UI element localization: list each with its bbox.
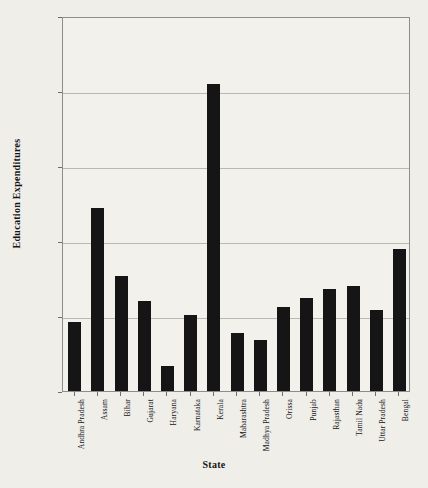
x-tick-mark: [97, 392, 98, 396]
y-axis-title: Education Expenditures: [11, 94, 22, 294]
x-tick-label: Orissa: [285, 399, 294, 419]
x-tick-mark: [282, 392, 283, 396]
x-tick-mark: [259, 392, 260, 396]
x-tick-mark: [236, 392, 237, 396]
x-tick-mark: [352, 392, 353, 396]
x-tick-label: Madhya Pradesh: [262, 399, 271, 451]
x-tick-mark: [74, 392, 75, 396]
bar: [68, 322, 81, 391]
bar: [254, 340, 267, 391]
bar: [300, 298, 313, 391]
bar: [370, 310, 383, 391]
y-tick-mark: [58, 392, 62, 393]
plot-area: [62, 17, 410, 392]
bar: [91, 208, 104, 391]
x-tick-label: Haryana: [169, 399, 178, 425]
x-tick-label: Bihar: [123, 399, 132, 416]
bar: [231, 333, 244, 392]
x-tick-mark: [143, 392, 144, 396]
x-tick-label: Uttar Pradesh: [378, 399, 387, 442]
x-tick-mark: [190, 392, 191, 396]
x-tick-label: Punjab: [309, 399, 318, 421]
bar: [277, 307, 290, 391]
bar: [138, 301, 151, 391]
bar: [161, 366, 174, 392]
x-tick-mark: [120, 392, 121, 396]
x-tick-label: Karnataka: [193, 399, 202, 431]
bar-group: [63, 18, 409, 391]
x-tick-label: Bengal: [401, 399, 410, 421]
x-tick-label: Rajasthan: [332, 399, 341, 430]
bar: [207, 84, 220, 392]
x-axis-title: State: [0, 459, 428, 470]
bar: [347, 286, 360, 391]
bar: [393, 249, 406, 392]
x-tick-mark: [375, 392, 376, 396]
x-tick-label: Gujarat: [146, 399, 155, 422]
x-tick-label: Maharashtra: [239, 399, 248, 438]
bar: [323, 289, 336, 391]
x-tick-label: Andhra Pradesh: [77, 399, 86, 449]
x-tick-label: Tamil Nadu: [355, 399, 364, 436]
bar: [115, 276, 128, 392]
x-tick-label: Assam: [100, 399, 109, 420]
education-expenditures-bar-chart: Education Expenditures 0.150.20.250.30.3…: [0, 0, 428, 488]
x-tick-mark: [306, 392, 307, 396]
x-tick-mark: [329, 392, 330, 396]
x-tick-label: Kerala: [216, 399, 225, 420]
x-tick-mark: [213, 392, 214, 396]
bar: [184, 315, 197, 392]
x-tick-mark: [166, 392, 167, 396]
x-tick-mark: [398, 392, 399, 396]
